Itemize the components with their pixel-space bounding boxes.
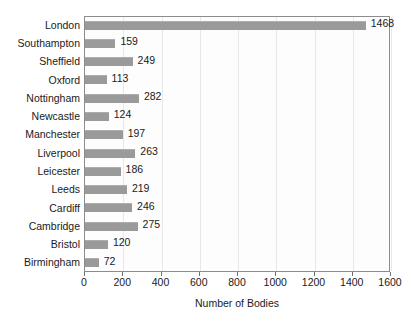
bar-value-label: 263 (140, 144, 158, 159)
y-axis-label-leeds: Leeds (0, 183, 80, 196)
bar-row: 72 (85, 255, 389, 272)
bar-row: 246 (85, 200, 389, 217)
bar-value-label: 124 (114, 107, 132, 122)
bar-row: 159 (85, 35, 389, 52)
x-axis-title: Number of Bodies (84, 297, 390, 310)
x-tick-label: 600 (190, 276, 208, 289)
bar[interactable] (85, 149, 135, 158)
x-tick-label: 200 (113, 276, 131, 289)
bar-row: 124 (85, 108, 389, 125)
x-axis-ticks: 02004006008001000120014001600 (84, 273, 390, 289)
bar-value-label: 113 (112, 71, 129, 86)
bar-value-label: 219 (132, 181, 150, 196)
y-axis-label-liverpool: Liverpool (0, 147, 80, 160)
y-axis-label-oxford: Oxford (0, 74, 80, 87)
bar-value-label: 197 (128, 126, 146, 141)
bar-value-label: 186 (126, 162, 144, 177)
bar[interactable] (85, 21, 366, 30)
bar[interactable] (85, 240, 108, 249)
bar-value-label: 275 (143, 217, 161, 232)
bar-value-label: 72 (104, 254, 116, 269)
gridline (391, 17, 392, 271)
bar[interactable] (85, 203, 132, 212)
bar[interactable] (85, 75, 107, 84)
x-tick-label: 800 (228, 276, 246, 289)
bars-layer: 1468159249113282124197263186219246275120… (85, 17, 389, 271)
bar-row: 197 (85, 127, 389, 144)
bar[interactable] (85, 222, 138, 231)
x-tick-label: 1400 (340, 276, 363, 289)
x-tick-label: 1200 (302, 276, 325, 289)
bar-row: 249 (85, 54, 389, 71)
y-axis-label-newcastle: Newcastle (0, 110, 80, 123)
bar-row: 120 (85, 236, 389, 253)
bar-value-label: 249 (138, 53, 156, 68)
bar-chart-figure: LondonSouthamptonSheffieldOxfordNottingh… (0, 0, 414, 321)
bar[interactable] (85, 185, 127, 194)
bar-value-label: 120 (113, 235, 131, 250)
bar-value-label: 282 (144, 89, 162, 104)
bar[interactable] (85, 57, 133, 66)
y-axis-category-labels: LondonSouthamptonSheffieldOxfordNottingh… (0, 16, 80, 272)
bar-row: 1468 (85, 17, 389, 34)
x-tick-label: 1000 (264, 276, 287, 289)
y-axis-label-birmingham: Birmingham (0, 256, 80, 269)
bar-value-label: 159 (120, 34, 138, 49)
bar-row: 219 (85, 182, 389, 199)
bar-row: 282 (85, 90, 389, 107)
y-axis-label-london: London (0, 19, 80, 32)
bar[interactable] (85, 130, 123, 139)
bar[interactable] (85, 39, 115, 48)
y-axis-label-nottingham: Nottingham (0, 92, 80, 105)
y-axis-label-cardiff: Cardiff (0, 202, 80, 215)
x-tick-label: 400 (152, 276, 170, 289)
y-axis-label-manchester: Manchester (0, 128, 80, 141)
x-tick-label: 0 (81, 276, 87, 289)
bar[interactable] (85, 112, 109, 121)
x-tick-label: 1600 (378, 276, 401, 289)
y-axis-label-cambridge: Cambridge (0, 220, 80, 233)
y-axis-label-leicester: Leicester (0, 165, 80, 178)
y-axis-label-bristol: Bristol (0, 238, 80, 251)
bar-row: 186 (85, 163, 389, 180)
bar-value-label: 1468 (371, 16, 394, 31)
plot-area: 1468159249113282124197263186219246275120… (84, 16, 390, 272)
y-axis-label-southampton: Southampton (0, 37, 80, 50)
bar-row: 113 (85, 72, 389, 89)
bar-row: 263 (85, 145, 389, 162)
y-axis-label-sheffield: Sheffield (0, 55, 80, 68)
bar[interactable] (85, 167, 121, 176)
bar[interactable] (85, 258, 99, 267)
bar[interactable] (85, 94, 139, 103)
bar-row: 275 (85, 218, 389, 235)
bar-value-label: 246 (137, 199, 155, 214)
